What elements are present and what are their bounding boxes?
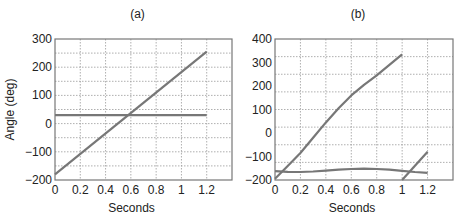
x-tick-label: 1.2	[198, 183, 215, 197]
x-tick-label: 0.8	[368, 183, 385, 197]
y-tick-label: 300	[252, 56, 272, 70]
y-tick-label: −100	[25, 145, 52, 159]
x-tick-label: 0.2	[72, 183, 89, 197]
x-tick-label: 1	[399, 183, 406, 197]
y-tick-label: 0	[265, 126, 272, 140]
y-tick-label: 200	[32, 60, 52, 74]
panel-title: (a)	[130, 7, 145, 21]
y-tick-label: −100	[245, 150, 272, 164]
x-axis-label: Seconds	[329, 201, 376, 215]
x-tick-label: 0.4	[97, 183, 114, 197]
y-tick-label: 100	[32, 88, 52, 102]
x-tick-label: 0.6	[343, 183, 360, 197]
x-tick-label: 0.2	[292, 183, 309, 197]
x-tick-label: 0	[52, 183, 59, 197]
y-tick-label: 100	[252, 103, 272, 117]
y-tick-label: −200	[245, 173, 272, 187]
y-tick-label: 0	[45, 117, 52, 131]
panel-b: 00.20.40.60.811.2−200−1000100200300400(b…	[245, 7, 453, 215]
y-tick-label: 300	[32, 32, 52, 46]
series-rising	[275, 54, 402, 179]
x-tick-label: 1	[178, 183, 185, 197]
panel-title: (b)	[351, 7, 366, 21]
x-tick-label: 0.4	[318, 183, 335, 197]
figure: 00.20.40.60.811.2−200−1000100200300(a)Se…	[0, 0, 471, 219]
panel-a: 00.20.40.60.811.2−200−1000100200300(a)Se…	[3, 7, 232, 215]
y-tick-label: 400	[252, 32, 272, 46]
y-tick-label: 200	[252, 79, 272, 93]
x-tick-label: 0	[272, 183, 279, 197]
x-tick-label: 1.2	[419, 183, 436, 197]
x-axis-label: Seconds	[108, 201, 155, 215]
x-tick-label: 0.8	[148, 183, 165, 197]
series-wrap	[402, 152, 428, 180]
x-tick-label: 0.6	[123, 183, 140, 197]
y-axis-label: Angle (deg)	[3, 78, 17, 140]
y-tick-label: −200	[25, 173, 52, 187]
